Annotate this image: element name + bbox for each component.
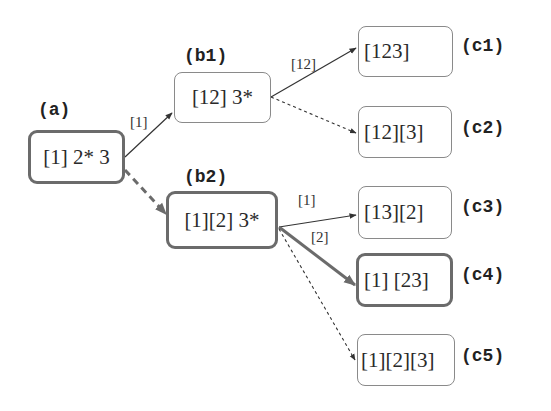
node-b1: [12] 3* <box>174 72 271 123</box>
edge-b1-c2 <box>271 97 356 133</box>
node-b2: [1][2] 3* <box>166 191 278 249</box>
node-tag-c3: (c3) <box>461 197 504 217</box>
edge-a-b2 <box>125 170 166 214</box>
node-tag-c2: (c2) <box>461 118 504 138</box>
node-b1-text: [12] 3* <box>192 85 253 110</box>
node-tag-c4: (c4) <box>461 265 504 285</box>
node-a-text: [1] 2* 3 <box>43 145 110 170</box>
node-c1-text: [123] <box>364 39 410 64</box>
node-tag-a: (a) <box>38 100 70 120</box>
node-c5-text: [1][2][3] <box>361 348 434 373</box>
edge-b2-c5 <box>279 229 355 360</box>
edge-b2-c3 <box>279 215 356 227</box>
node-c4: [1] [23] <box>356 253 453 307</box>
node-c3-text: [13][2] <box>364 200 423 225</box>
node-tag-b2: (b2) <box>184 167 227 187</box>
node-c3: [13][2] <box>358 186 452 239</box>
node-c1: [123] <box>358 26 453 77</box>
node-b2-text: [1][2] 3* <box>184 208 259 233</box>
node-c5: [1][2][3] <box>357 334 455 386</box>
tree-diagram: [1] [12] [1] [2] (a) (b1) (b2) (c1) (c2)… <box>0 0 551 411</box>
edge-label-a-b1: [1] <box>130 114 148 131</box>
node-c2-text: [12][3] <box>364 120 423 145</box>
node-tag-b1: (b1) <box>184 46 227 66</box>
node-c2: [12][3] <box>358 106 452 158</box>
edge-label-b2-c4: [2] <box>311 229 329 246</box>
node-tag-c5: (c5) <box>461 346 504 366</box>
node-a: [1] 2* 3 <box>28 130 125 184</box>
edge-label-b1-c1: [12] <box>291 56 316 73</box>
edge-label-b2-c3: [1] <box>298 192 316 209</box>
node-tag-c1: (c1) <box>461 36 504 56</box>
node-c4-text: [1] [23] <box>364 268 429 293</box>
